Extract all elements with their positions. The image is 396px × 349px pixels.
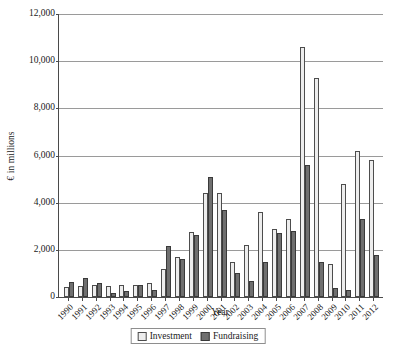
bar-group: [270, 14, 284, 297]
bar-fundraising-2008[interactable]: [319, 262, 324, 297]
legend-swatch-fundraising: [201, 332, 210, 341]
bar-group: [298, 14, 312, 297]
bar-fundraising-1992[interactable]: [97, 283, 102, 297]
x-tick-mark: [359, 297, 360, 301]
legend-label-fundraising: Fundraising: [213, 331, 258, 341]
x-tick-mark: [345, 297, 346, 301]
bar-fundraising-2002[interactable]: [235, 273, 240, 297]
bar-group: [353, 14, 367, 297]
y-axis-title: € in millions: [6, 86, 16, 226]
bar-group: [284, 14, 298, 297]
y-tick-mark: [56, 297, 60, 298]
y-tick-label: 12,000: [29, 9, 55, 19]
bar-group: [187, 14, 201, 297]
y-tick-label: 2,000: [34, 245, 55, 255]
bar-fundraising-1995[interactable]: [138, 285, 143, 297]
bar-group: [201, 14, 215, 297]
x-tick-mark: [318, 297, 319, 301]
y-tick-label: 4,000: [34, 198, 55, 208]
bar-fundraising-2007[interactable]: [305, 165, 310, 297]
bar-group: [229, 14, 243, 297]
x-tick-mark: [96, 297, 97, 301]
bar-fundraising-1996[interactable]: [152, 290, 157, 297]
bar-fundraising-2004[interactable]: [263, 262, 268, 297]
bar-fundraising-2001[interactable]: [222, 210, 227, 297]
bar-group: [62, 14, 76, 297]
bar-fundraising-1991[interactable]: [83, 278, 88, 297]
bar-group: [215, 14, 229, 297]
x-tick-mark: [373, 297, 374, 301]
x-tick-mark: [110, 297, 111, 301]
bar-fundraising-1999[interactable]: [194, 235, 199, 297]
bar-fundraising-2003[interactable]: [249, 281, 254, 298]
legend-item-investment[interactable]: Investment: [138, 331, 192, 341]
chart-legend: Investment Fundraising: [131, 328, 266, 344]
bar-fundraising-2009[interactable]: [333, 288, 338, 297]
x-tick-mark: [68, 297, 69, 301]
legend-item-fundraising[interactable]: Fundraising: [201, 331, 258, 341]
x-tick-mark: [332, 297, 333, 301]
bar-fundraising-1993[interactable]: [111, 293, 116, 297]
bar-group: [242, 14, 256, 297]
bar-fundraising-2010[interactable]: [346, 290, 351, 297]
x-tick-mark: [304, 297, 305, 301]
bar-group: [159, 14, 173, 297]
bar-group: [173, 14, 187, 297]
bar-chart: € in millions 12,00010,0008,0006,0004,00…: [0, 0, 396, 349]
x-tick-mark: [165, 297, 166, 301]
bar-investment-2010[interactable]: [341, 184, 346, 297]
x-tick-mark: [179, 297, 180, 301]
bar-group: [256, 14, 270, 297]
bar-fundraising-2006[interactable]: [291, 231, 296, 297]
x-tick-mark: [262, 297, 263, 301]
x-axis-title: Year: [58, 307, 382, 317]
bar-fundraising-1997[interactable]: [166, 246, 171, 297]
x-tick-mark: [234, 297, 235, 301]
x-tick-mark: [276, 297, 277, 301]
bar-group: [312, 14, 326, 297]
y-tick-label: 6,000: [34, 151, 55, 161]
bar-fundraising-2005[interactable]: [277, 233, 282, 297]
bar-group: [104, 14, 118, 297]
bar-group: [76, 14, 90, 297]
x-tick-mark: [151, 297, 152, 301]
bar-fundraising-2000[interactable]: [208, 177, 213, 297]
bar-fundraising-1994[interactable]: [124, 291, 129, 297]
x-tick-mark: [193, 297, 194, 301]
bar-group: [367, 14, 381, 297]
bar-fundraising-1990[interactable]: [69, 282, 74, 297]
bar-group: [145, 14, 159, 297]
x-tick-mark: [82, 297, 83, 301]
plot-area: 12,00010,0008,0006,0004,0002,0000: [58, 14, 383, 298]
legend-label-investment: Investment: [150, 331, 192, 341]
bar-group: [90, 14, 104, 297]
bar-group: [131, 14, 145, 297]
x-tick-mark: [207, 297, 208, 301]
y-tick-label: 0: [50, 292, 55, 302]
bar-fundraising-2012[interactable]: [374, 255, 379, 297]
y-tick-label: 10,000: [29, 56, 55, 66]
bar-group: [118, 14, 132, 297]
bar-series-container: [59, 14, 383, 297]
legend-swatch-investment: [138, 332, 147, 341]
bar-fundraising-2011[interactable]: [360, 219, 365, 297]
x-tick-mark: [137, 297, 138, 301]
bar-fundraising-1998[interactable]: [180, 259, 185, 297]
x-tick-mark: [248, 297, 249, 301]
bar-group: [340, 14, 354, 297]
x-tick-mark: [123, 297, 124, 301]
x-tick-mark: [290, 297, 291, 301]
bar-group: [326, 14, 340, 297]
y-tick-label: 8,000: [34, 104, 55, 114]
x-tick-mark: [221, 297, 222, 301]
